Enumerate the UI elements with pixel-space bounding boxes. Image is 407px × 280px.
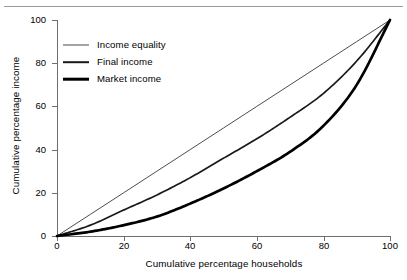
legend-item-market-income: Market income — [63, 72, 166, 86]
legend-label-income-equality: Income equality — [97, 40, 166, 50]
chart-legend: Income equality Final income Market inco… — [63, 38, 166, 89]
legend-line-icon-thick — [63, 74, 89, 84]
legend-line-icon-medium — [63, 57, 89, 67]
legend-item-final-income: Final income — [63, 55, 166, 69]
legend-label-final-income: Final income — [97, 57, 153, 67]
lorenz-curve-chart: 100 80 60 40 20 0 0 20 40 60 80 100 Cumu… — [0, 0, 407, 280]
legend-item-income-equality: Income equality — [63, 38, 166, 52]
chart-curves-layer — [0, 0, 407, 280]
legend-line-icon-thin — [63, 40, 89, 50]
legend-label-market-income: Market income — [97, 74, 161, 84]
